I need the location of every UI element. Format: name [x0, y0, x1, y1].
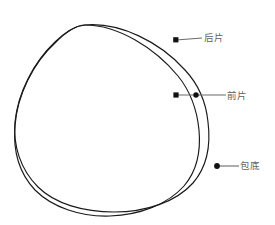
back-panel-outline: [15, 25, 209, 212]
label-back-panel: 后片: [204, 32, 225, 43]
leader-dot-bag-bottom: [214, 163, 220, 169]
diagram-canvas: [0, 0, 275, 225]
pattern-diagram: 后片 前片 包底: [0, 0, 275, 225]
label-bag-bottom: 包底: [240, 160, 261, 171]
label-front-panel: 前片: [227, 90, 248, 101]
front-panel-outline: [15, 25, 200, 216]
leader-line-back-panel: [176, 38, 202, 40]
leader-dot-front-panel: [173, 92, 178, 97]
leader-junction-front-panel: [193, 92, 198, 97]
leader-dot-back-panel: [173, 37, 178, 42]
